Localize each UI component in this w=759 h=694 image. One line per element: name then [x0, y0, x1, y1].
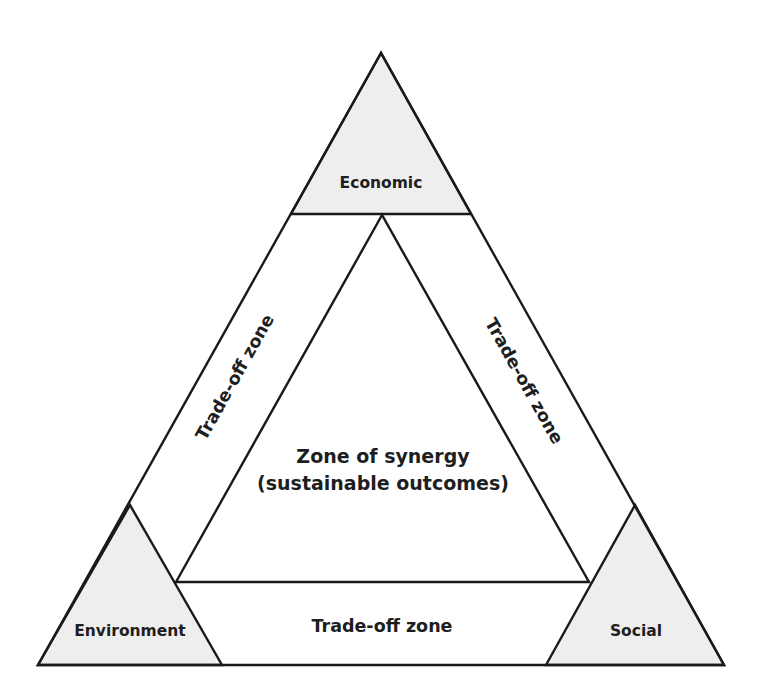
- economic-label: Economic: [340, 174, 423, 192]
- social-corner-triangle: [546, 505, 724, 665]
- environment-corner-triangle: [38, 505, 222, 665]
- right-tradeoff-zone-label: Trade-off zone: [481, 315, 567, 448]
- bottom-tradeoff-zone-label: Trade-off zone: [312, 616, 453, 636]
- synergy-zone-subtitle: (sustainable outcomes): [257, 472, 509, 494]
- synergy-zone-title: Zone of synergy: [296, 445, 470, 467]
- social-label: Social: [610, 622, 662, 640]
- environment-label: Environment: [74, 622, 186, 640]
- sustainability-triangle-diagram: Economic Environment Social Trade-off zo…: [0, 0, 759, 694]
